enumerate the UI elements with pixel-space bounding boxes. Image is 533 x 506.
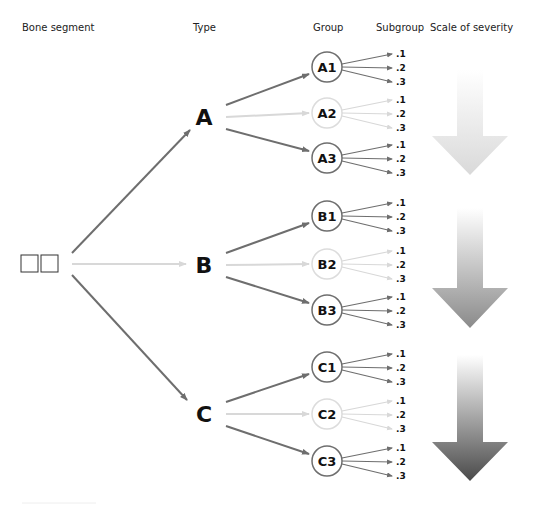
arrow-to-subgroup: [342, 203, 392, 213]
subgroup-label-b2-2: .2: [396, 260, 406, 270]
arrow-to-subgroup: [342, 464, 392, 476]
type-label-a: A: [195, 105, 212, 130]
subgroup-label-c2-2: .2: [396, 410, 406, 420]
group-label: C2: [318, 407, 337, 422]
arrow-to-subgroup: [342, 297, 392, 307]
arrow-to-group-b3: [226, 277, 309, 303]
arrow-to-subgroup: [342, 267, 392, 279]
arrow-to-type-a: [72, 130, 190, 253]
subgroup-label-b2-3: .3: [396, 274, 406, 284]
subgroup-label-c2-1: .1: [396, 396, 406, 406]
severity-arrow-mild: [432, 70, 508, 175]
arrow-to-group-a2: [226, 113, 309, 117]
subgroup-label-a1-1: .1: [396, 49, 406, 59]
type-label-c: C: [196, 402, 212, 427]
group-label: C3: [318, 454, 337, 469]
group-node-b3: B3: [312, 295, 342, 325]
severity-arrow-severe: [432, 355, 508, 481]
arrow-to-subgroup: [342, 100, 392, 110]
subgroup-label-a1-2: .2: [396, 63, 406, 73]
subgroup-label-a3-1: .1: [396, 140, 406, 150]
arrow-to-subgroup: [342, 367, 392, 368]
arrow-to-group-a3: [226, 129, 309, 151]
arrow-to-subgroup: [342, 216, 392, 217]
arrow-to-subgroup: [342, 161, 392, 173]
arrow-to-subgroup: [342, 461, 392, 462]
subgroup-label-c3-3: .3: [396, 471, 406, 481]
subgroup-label-c1-3: .3: [396, 377, 406, 387]
subgroup-label-b3-2: .2: [396, 306, 406, 316]
arrow-to-subgroup: [342, 448, 392, 458]
group-node-b1: B1: [312, 201, 342, 231]
classification-diagram: AA1.1.2.3A2.1.2.3A3.1.2.3BB1.1.2.3B2.1.2…: [0, 0, 533, 506]
arrow-to-group-a1: [226, 74, 309, 105]
arrow-to-subgroup: [342, 414, 392, 415]
group-node-c3: C3: [312, 446, 342, 476]
arrow-to-type-c: [72, 275, 187, 400]
group-node-a3: A3: [312, 143, 342, 173]
subgroup-label-a2-3: .3: [396, 123, 406, 133]
severity-arrow-moderate: [432, 208, 508, 328]
group-label: A1: [317, 60, 336, 75]
arrow-to-group-c1: [226, 374, 309, 402]
arrow-to-subgroup: [342, 67, 392, 68]
arrow-to-subgroup: [342, 145, 392, 155]
arrow-to-subgroup: [342, 401, 392, 411]
arrow-to-subgroup: [342, 310, 392, 311]
group-node-b2: B2: [312, 249, 342, 279]
group-node-c2: C2: [312, 399, 342, 429]
subgroup-label-a3-3: .3: [396, 168, 406, 178]
group-label: B1: [318, 209, 337, 224]
subgroup-label-b1-3: .3: [396, 226, 406, 236]
arrow-to-group-b2: [226, 264, 309, 265]
arrow-to-subgroup: [342, 354, 392, 364]
subgroup-label-b3-3: .3: [396, 320, 406, 330]
subgroup-label-b1-1: .1: [396, 198, 406, 208]
type-label-b: B: [196, 253, 213, 278]
subgroup-label-c3-2: .2: [396, 457, 406, 467]
subgroup-label-b1-2: .2: [396, 212, 406, 222]
group-node-c1: C1: [312, 352, 342, 382]
arrow-to-subgroup: [342, 313, 392, 325]
subgroup-label-a2-2: .2: [396, 109, 406, 119]
arrow-to-subgroup: [342, 251, 392, 261]
arrow-to-subgroup: [342, 417, 392, 429]
subgroup-label-b2-1: .1: [396, 246, 406, 256]
bone-segment-icon: [21, 255, 58, 272]
subgroup-label-a3-2: .2: [396, 154, 406, 164]
arrow-to-subgroup: [342, 264, 392, 265]
arrow-to-subgroup: [342, 54, 392, 64]
group-node-a1: A1: [312, 52, 342, 82]
subgroup-label-c2-3: .3: [396, 424, 406, 434]
group-label: A2: [317, 106, 336, 121]
arrow-to-group-b1: [226, 223, 309, 253]
group-label: B3: [318, 303, 337, 318]
group-node-a2: A2: [312, 98, 342, 128]
arrow-to-subgroup: [342, 158, 392, 159]
subgroup-label-a1-3: .3: [396, 77, 406, 87]
subgroup-label-c1-1: .1: [396, 349, 406, 359]
arrow-to-subgroup: [342, 370, 392, 382]
subgroup-label-a2-1: .1: [396, 95, 406, 105]
subgroup-label-b3-1: .1: [396, 292, 406, 302]
arrow-to-subgroup: [342, 116, 392, 128]
arrow-to-group-c3: [226, 426, 309, 454]
group-label: B2: [318, 257, 337, 272]
arrow-to-subgroup: [342, 70, 392, 82]
group-label: C1: [318, 360, 337, 375]
arrow-to-subgroup: [342, 219, 392, 231]
group-label: A3: [317, 151, 336, 166]
subgroup-label-c1-2: .2: [396, 363, 406, 373]
arrow-to-subgroup: [342, 113, 392, 114]
subgroup-label-c3-1: .1: [396, 443, 406, 453]
